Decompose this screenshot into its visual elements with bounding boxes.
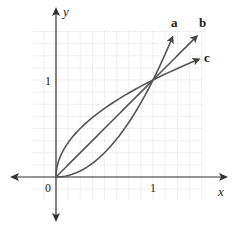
curve-a-label: a <box>171 15 178 30</box>
x-axis-label: x <box>217 184 224 199</box>
x-tick-1-label: 1 <box>150 181 156 195</box>
y-tick-1-label: 1 <box>45 74 51 88</box>
curve-a <box>56 37 172 177</box>
curve-c-label: c <box>204 50 210 65</box>
function-graph: y x 0 1 1 a b c <box>0 0 233 228</box>
curve-b <box>56 36 197 177</box>
curve-b-label: b <box>199 15 206 30</box>
origin-label: 0 <box>45 181 51 195</box>
y-axis-label: y <box>61 4 69 19</box>
